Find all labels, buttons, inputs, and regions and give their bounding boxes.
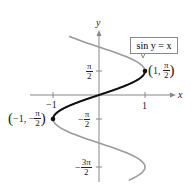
point-neg1-neg-pi-half xyxy=(51,117,56,122)
x-tick-label-neg1: −1 xyxy=(46,100,57,110)
point-1-pi-half xyxy=(143,69,148,74)
y-axis-arrow-icon xyxy=(97,30,102,36)
point-label-neg1-neg-pi-half: (−1, −π2) xyxy=(8,109,46,128)
point-label-1-pi-half: (1, π2) xyxy=(148,61,175,80)
x-tick-label-1: 1 xyxy=(142,101,147,111)
y-tick-label-neg-3pi-half: −3π2 xyxy=(75,158,92,177)
x-axis-arrow-icon xyxy=(170,93,176,98)
equation-callout: sin y = x xyxy=(130,37,178,54)
graph-canvas xyxy=(0,0,191,188)
equation-label: sin y = x xyxy=(137,40,172,51)
x-axis-label: x xyxy=(178,90,182,100)
y-tick-label-neg-pi-half: −π2 xyxy=(78,110,90,129)
y-axis-label: y xyxy=(96,18,100,28)
y-tick-label-pi-half: π2 xyxy=(86,62,93,81)
sin-y-equals-x-figure: sin y = x y x −1 1 π2 −π2 −3π2 (1, π2) (… xyxy=(0,0,191,188)
